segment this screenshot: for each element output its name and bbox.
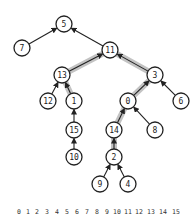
tree-node-14: 14 (106, 122, 122, 138)
node-label: 6 (179, 97, 184, 106)
index-label: 9 (105, 208, 109, 216)
tree-node-0: 0 (120, 93, 136, 109)
index-label: 8 (95, 208, 99, 216)
tree-node-10: 10 (66, 149, 82, 165)
tree-node-15: 15 (66, 122, 82, 138)
index-row: 0123456789101112131415 (17, 208, 180, 216)
node-label: 13 (57, 71, 67, 80)
tree-node-4: 4 (120, 176, 136, 192)
index-label: 4 (55, 208, 59, 216)
edge-4-to-2 (118, 165, 124, 177)
edge-7-to-5 (29, 28, 57, 44)
node-label: 11 (105, 46, 115, 55)
index-label: 3 (45, 208, 49, 216)
index-label: 13 (147, 208, 155, 216)
edge-12-to-13 (52, 82, 58, 93)
index-label: 7 (85, 208, 89, 216)
node-label: 5 (62, 20, 67, 29)
node-label: 7 (20, 44, 25, 53)
tree-node-11: 11 (102, 42, 118, 58)
node-label: 9 (98, 180, 103, 189)
node-label: 14 (109, 126, 119, 135)
index-label: 6 (75, 208, 79, 216)
tree-node-2: 2 (106, 149, 122, 165)
node-label: 2 (112, 153, 117, 162)
tree-node-7: 7 (14, 40, 30, 56)
edge-8-to-0 (134, 107, 150, 124)
tree-node-1: 1 (66, 93, 82, 109)
edge-6-to-3 (161, 81, 175, 95)
tree-node-13: 13 (54, 67, 70, 83)
tree-node-9: 9 (92, 176, 108, 192)
index-label: 10 (113, 208, 121, 216)
index-label: 0 (17, 208, 21, 216)
node-label: 4 (126, 180, 131, 189)
node-label: 10 (69, 153, 79, 162)
edge-9-to-2 (104, 165, 110, 177)
edge-13-to-11 (69, 54, 102, 71)
index-label: 11 (124, 208, 132, 216)
node-label: 12 (43, 97, 53, 106)
tree-diagram: 5711133121061514810294 01234567891011121… (0, 0, 195, 222)
edge-0-to-3 (134, 81, 149, 96)
node-label: 8 (153, 126, 158, 135)
index-label: 14 (159, 208, 167, 216)
index-label: 15 (172, 208, 180, 216)
tree-node-12: 12 (40, 93, 56, 109)
edge-11-to-5 (71, 28, 103, 46)
tree-node-6: 6 (173, 93, 189, 109)
index-label: 12 (135, 208, 143, 216)
index-label: 1 (26, 208, 30, 216)
tree-node-5: 5 (56, 16, 72, 32)
tree-node-8: 8 (147, 122, 163, 138)
index-label: 5 (65, 208, 69, 216)
tree-node-3: 3 (147, 67, 163, 83)
node-label: 3 (153, 71, 158, 80)
edge-3-to-11 (117, 54, 148, 71)
node-label: 0 (126, 97, 131, 106)
nodes: 5711133121061514810294 (14, 16, 189, 192)
node-label: 15 (69, 126, 79, 135)
node-label: 1 (72, 97, 77, 106)
index-label: 2 (35, 208, 39, 216)
